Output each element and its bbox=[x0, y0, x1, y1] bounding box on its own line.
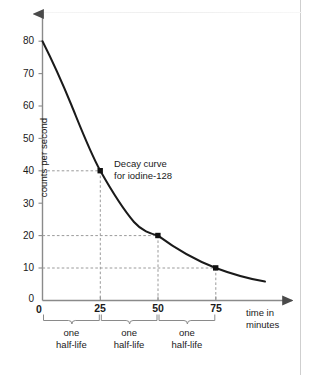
guide-lines bbox=[43, 171, 216, 300]
decay-curve-figure: counts per second 80 70 60 50 40 30 20 1… bbox=[0, 0, 312, 375]
y-axis-title: counts per second bbox=[38, 98, 49, 218]
y-tick-label-40: 40 bbox=[12, 165, 34, 176]
marker-50-20 bbox=[155, 233, 160, 238]
half-life-braces bbox=[44, 315, 215, 325]
brace-2 bbox=[101, 315, 157, 325]
x-tick-label-50: 50 bbox=[146, 302, 170, 314]
curve-annotation-line1: Decay curve bbox=[114, 158, 172, 170]
y-tick-label-20: 20 bbox=[12, 230, 34, 241]
x-axis-title: time in minutes bbox=[246, 307, 279, 331]
x-tick-label-25: 25 bbox=[88, 302, 112, 314]
y-tick-label-10: 10 bbox=[12, 262, 34, 273]
marker-75-10 bbox=[213, 265, 218, 270]
x-axis-title-line1: time in bbox=[246, 307, 279, 319]
y-tick-label-60: 60 bbox=[12, 100, 34, 111]
half-life-caption-3: one half-life bbox=[152, 327, 222, 351]
y-tick-label-50: 50 bbox=[12, 133, 34, 144]
curve-annotation: Decay curve for iodine-128 bbox=[114, 158, 172, 182]
x-axis-zero-label: 0 bbox=[36, 303, 42, 315]
brace-3 bbox=[159, 315, 215, 325]
y-axis-zero-label: 0 bbox=[12, 293, 34, 304]
x-tick-label-75: 75 bbox=[204, 302, 228, 314]
marker-25-40 bbox=[98, 168, 103, 173]
half-life-caption-3-line2: half-life bbox=[152, 339, 222, 351]
half-life-caption-3-line1: one bbox=[152, 327, 222, 339]
curve-annotation-line2: for iodine-128 bbox=[114, 170, 172, 182]
y-tick-label-30: 30 bbox=[12, 198, 34, 209]
x-axis-title-line2: minutes bbox=[246, 319, 279, 331]
y-tick-label-80: 80 bbox=[12, 35, 34, 46]
brace-1 bbox=[44, 315, 100, 325]
y-tick-label-70: 70 bbox=[12, 68, 34, 79]
